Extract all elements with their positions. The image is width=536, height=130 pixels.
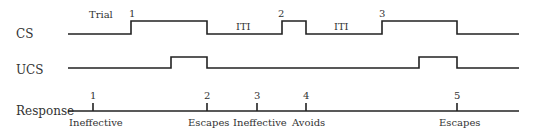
- cs-trial-number-1: 1: [129, 8, 135, 19]
- response-outcome-2: Escapes: [188, 117, 229, 128]
- conditioning-timeline-diagram: CS UCS Response Trial 1 ITI 2 ITI 3 1 2 …: [0, 0, 536, 130]
- response-outcome-4: Avoids: [291, 117, 325, 128]
- response-outcome-5: Escapes: [439, 117, 480, 128]
- cs-trial-number-3: 3: [379, 8, 385, 19]
- iti-label-1: ITI: [236, 21, 251, 32]
- cs-waveform: [68, 21, 519, 34]
- cs-trial-number-2: 2: [278, 8, 284, 19]
- row-label-response: Response: [16, 104, 74, 118]
- response-number-3: 3: [254, 90, 260, 101]
- iti-label-2: ITI: [334, 21, 349, 32]
- trial-label: Trial: [89, 9, 113, 20]
- response-number-4: 4: [303, 90, 309, 101]
- row-label-cs: CS: [16, 27, 33, 41]
- row-label-ucs: UCS: [16, 63, 44, 77]
- response-number-5: 5: [454, 90, 460, 101]
- response-outcome-1: Ineffective: [69, 117, 123, 128]
- response-number-2: 2: [204, 90, 210, 101]
- response-outcome-3: Ineffective: [233, 117, 287, 128]
- response-number-1: 1: [90, 90, 96, 101]
- ucs-waveform: [68, 57, 519, 68]
